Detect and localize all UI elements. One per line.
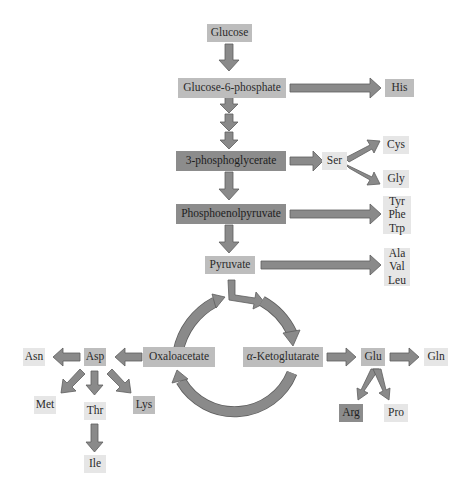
node-branched-group: Ala Val Leu — [384, 248, 410, 286]
node-pro: Pro — [384, 404, 408, 422]
arrow-pep-to-aromatic — [290, 204, 381, 224]
arrow-g6p-to-his — [290, 78, 381, 98]
node-his: His — [385, 79, 414, 97]
node-gln: Gln — [424, 348, 448, 366]
node-gly: Gly — [383, 170, 409, 188]
arrow-g6p-to-3pg-steps — [220, 96, 238, 149]
node-met: Met — [34, 396, 56, 414]
arrow-asp-to-lys — [107, 369, 131, 393]
arrow-pyruvate-into-cycle — [228, 280, 265, 309]
node-ile: Ile — [84, 455, 106, 473]
node-asn: Asn — [23, 348, 45, 366]
arrow-pep-to-pyruvate — [219, 225, 239, 253]
tca-arc-right — [262, 301, 300, 346]
arrow-akg-to-glu — [327, 348, 356, 366]
node-pyruvate: Pyruvate — [205, 256, 255, 274]
arrow-asp-to-met — [61, 369, 85, 393]
tca-arc-left — [178, 294, 225, 352]
node-ala: Ala — [389, 247, 406, 260]
node-thr: Thr — [84, 402, 106, 420]
node-phe: Phe — [388, 208, 405, 221]
node-asp: Asp — [84, 348, 106, 366]
node-lys: Lys — [133, 396, 155, 414]
node-leu: Leu — [388, 274, 406, 287]
node-trp: Trp — [389, 222, 405, 235]
arrow-oxaloacetate-to-asp — [115, 348, 142, 366]
node-phosphoenolpyruvate: Phosphoenolpyruvate — [176, 204, 286, 224]
node-glucose: Glucose — [207, 24, 252, 42]
arrow-asp-to-thr — [86, 371, 103, 395]
node-oxaloacetate: Oxaloacetate — [143, 347, 215, 367]
arrow-3pg-to-ser — [290, 151, 323, 171]
node-tyr: Tyr — [389, 195, 405, 208]
arrow-thr-to-ile — [86, 424, 103, 452]
arrow-glucose-to-g6p — [219, 44, 239, 71]
arrow-glu-to-arg-pro — [357, 369, 390, 400]
arrow-ser-to-cys-gly — [345, 140, 380, 185]
node-alpha-ketoglutarate: α-Ketoglutarate — [243, 347, 323, 367]
arrow-glu-to-gln — [390, 348, 419, 366]
node-val: Val — [389, 260, 404, 273]
akg-label: -Ketoglutarate — [253, 350, 319, 363]
node-3-phosphoglycerate: 3-phosphoglycerate — [176, 151, 286, 171]
tca-arc-bottom — [172, 370, 292, 412]
node-ser: Ser — [322, 152, 347, 170]
node-aromatic-group: Tyr Phe Trp — [383, 196, 411, 234]
node-arg: Arg — [339, 404, 363, 422]
arrow-pyruvate-to-branched — [261, 255, 381, 275]
node-glucose-6-phosphate: Glucose-6-phosphate — [178, 78, 286, 98]
arrow-asp-to-asn — [53, 348, 80, 366]
arrow-3pg-to-pep — [219, 172, 239, 200]
node-cys: Cys — [383, 136, 409, 154]
node-glu: Glu — [361, 348, 385, 366]
